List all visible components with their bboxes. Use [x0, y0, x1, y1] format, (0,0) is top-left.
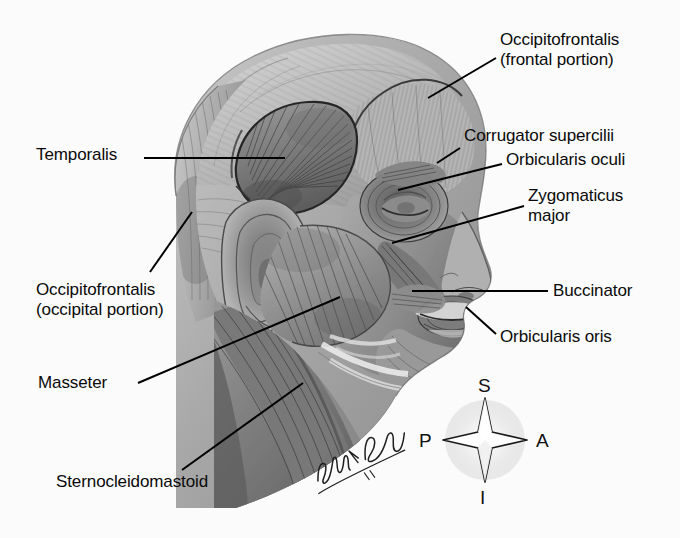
label-occipitofrontalis-occipital: Occipitofrontalis(occipital portion)	[36, 280, 164, 320]
label-line: Masseter	[38, 373, 107, 393]
label-line: Zygomaticus	[528, 186, 623, 206]
head-muscles-illustration	[0, 0, 680, 538]
label-line: Temporalis	[36, 145, 117, 165]
label-occipitofrontalis-frontal: Occipitofrontalis(frontal portion)	[500, 30, 619, 70]
compass-label-inferior: I	[480, 488, 485, 507]
anatomy-figure: Occipitofrontalis(frontal portion)Corrug…	[0, 0, 680, 538]
compass-label-superior: S	[478, 376, 491, 395]
label-line: Sternocleidomastoid	[56, 472, 208, 492]
label-orbicularis-oris: Orbicularis oris	[500, 327, 612, 347]
label-line: major	[528, 206, 623, 226]
label-line: Buccinator	[553, 281, 632, 301]
label-line: Orbicularis oris	[500, 327, 612, 347]
label-line: Occipitofrontalis	[36, 280, 164, 300]
compass-label-anterior: A	[536, 431, 549, 450]
label-zygomaticus-major: Zygomaticusmajor	[528, 186, 623, 226]
label-line: (frontal portion)	[500, 50, 619, 70]
compass-label-posterior: P	[419, 431, 432, 450]
label-line: Orbicularis oculi	[506, 150, 625, 170]
label-corrugator-supercilii: Corrugator supercilii	[464, 126, 614, 146]
label-line: (occipital portion)	[36, 300, 164, 320]
label-temporalis: Temporalis	[36, 145, 117, 165]
label-buccinator: Buccinator	[553, 281, 632, 301]
label-orbicularis-oculi: Orbicularis oculi	[506, 150, 625, 170]
label-masseter: Masseter	[38, 373, 107, 393]
label-line: Occipitofrontalis	[500, 30, 619, 50]
label-line: Corrugator supercilii	[464, 126, 614, 146]
label-sternocleidomastoid: Sternocleidomastoid	[56, 472, 208, 492]
